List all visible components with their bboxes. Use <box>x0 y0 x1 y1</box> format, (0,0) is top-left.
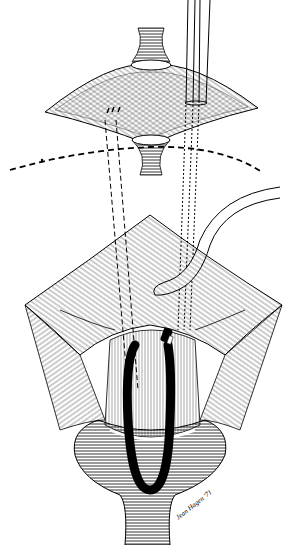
dashed-curve <box>10 147 262 172</box>
lower-surgical-field <box>25 215 282 438</box>
surgical-illustration: Jean Hagen '71 <box>0 0 301 545</box>
bladder-bulb <box>74 420 226 545</box>
upper-incision-inset <box>45 28 258 175</box>
